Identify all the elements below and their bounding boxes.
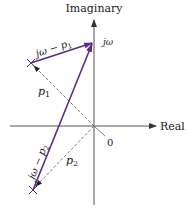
pole-p2-x-icon	[29, 186, 37, 194]
vector-jw-minus-p2	[33, 44, 92, 190]
imaginary-axis-label: Imaginary	[65, 2, 123, 15]
pole-p1-x-icon	[27, 59, 35, 67]
vector-jw-minus-p1-label: jω − p1	[32, 37, 73, 61]
p1-label: p1	[38, 85, 50, 99]
real-axis-label: Real	[160, 120, 185, 133]
origin-label: 0	[107, 137, 113, 148]
jw-point-label: jω	[101, 37, 114, 47]
origin-label-leader	[95, 127, 105, 136]
pole-vector-diagram: Imaginary Real 0 jω p1 p2 jω − p1 jω − p…	[0, 0, 189, 209]
p2-label: p2	[66, 154, 78, 168]
